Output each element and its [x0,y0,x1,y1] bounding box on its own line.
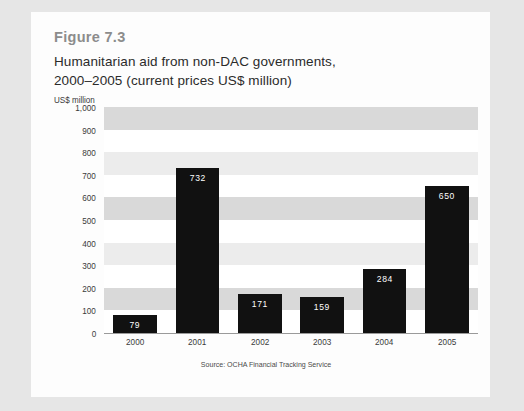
bar[interactable]: 284 [363,269,407,333]
bar-slot: 171 [238,107,282,333]
bar[interactable]: 159 [300,297,344,333]
bar[interactable]: 650 [425,186,469,333]
bar[interactable]: 171 [238,294,282,333]
bar-value-label: 159 [303,301,342,312]
x-axis-tick-label: 2003 [295,336,349,347]
bar-slot: 650 [425,107,469,333]
bar-slot: 732 [176,107,220,333]
bar-slot: 79 [113,107,157,333]
x-axis-tick-label: 2005 [420,336,474,347]
y-axis-tick-label: 600 [82,192,96,203]
bar-slot: 159 [300,107,344,333]
y-axis-tick-label: 800 [82,147,96,158]
x-axis-tick-label: 2001 [171,336,225,347]
page-background: Figure 7.3 Humanitarian aid from non-DAC… [0,0,524,411]
plot-area: 79732171159284650 [104,107,478,333]
figure-title: Humanitarian aid from non-DAC government… [54,52,454,90]
bar[interactable]: 79 [113,315,157,333]
y-axis: 01002003004005006007008009001,000 [54,107,100,333]
bars-layer: 79732171159284650 [104,107,478,333]
figure-title-line-1: Humanitarian aid from non-DAC government… [54,54,336,69]
y-axis-tick-label: 100 [82,305,96,316]
y-axis-tick-label: 500 [82,215,96,226]
y-axis-tick-label: 300 [82,260,96,271]
y-axis-tick-label: 0 [91,328,96,339]
y-axis-tick-label: 700 [82,169,96,180]
y-axis-tick-label: 400 [82,237,96,248]
x-axis: 200020012002200320042005 [104,336,478,352]
bar-value-label: 79 [116,319,155,330]
figure-number: Figure 7.3 [54,29,126,45]
y-axis-tick-label: 200 [82,282,96,293]
x-axis-tick-label: 2002 [233,336,287,347]
figure-title-line-2: 2000–2005 (current prices US$ million) [54,71,454,90]
bar-value-label: 171 [240,298,279,309]
y-axis-tick-label: 1,000 [76,102,96,113]
y-axis-tick-label: 900 [82,124,96,135]
chart-plot-wrapper: 01002003004005006007008009001,000 797321… [54,107,478,333]
bar-slot: 284 [363,107,407,333]
bar-value-label: 284 [365,273,404,284]
bar-value-label: 650 [427,190,466,201]
x-axis-tick-label: 2004 [358,336,412,347]
bar[interactable]: 732 [176,168,220,333]
source-note: Source: OCHA Financial Tracking Service [79,360,452,369]
x-axis-tick-label: 2000 [108,336,162,347]
x-axis-line [104,333,478,334]
figure-card: Figure 7.3 Humanitarian aid from non-DAC… [31,12,490,397]
bar-value-label: 732 [178,172,217,183]
